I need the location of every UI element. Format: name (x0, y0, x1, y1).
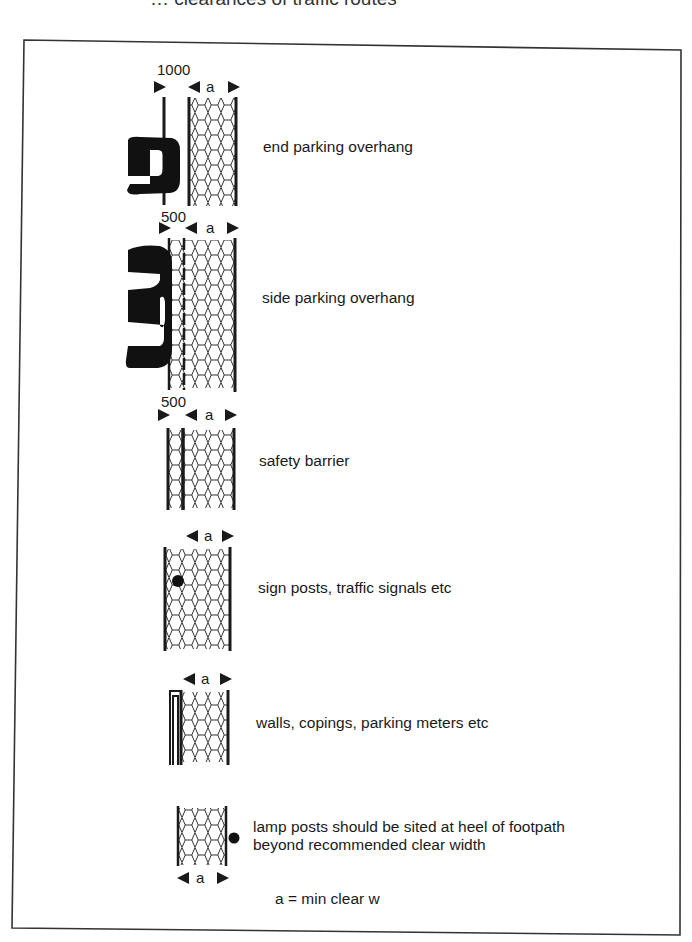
arrow-left-icon (188, 81, 200, 93)
offset-label-500: 500 (161, 393, 186, 410)
width-label-a: a (206, 78, 215, 95)
width-label-a: a (196, 869, 205, 886)
arrow-left-icon (185, 222, 197, 234)
row-side-parking: 500 a side parking overhang (126, 208, 415, 392)
row-description-line1: lamp posts should be sited at heel of fo… (253, 818, 565, 835)
offset-label-1000: 1000 (157, 61, 190, 78)
arrow-left-icon (183, 673, 195, 685)
arrow-right-icon (154, 81, 166, 93)
row-safety-barrier: 500 a safety barrier (158, 393, 349, 510)
row-description: sign posts, traffic signals etc (258, 579, 452, 596)
wall-icon (170, 691, 181, 765)
lamp-post-icon (229, 833, 240, 844)
width-label-a: a (206, 219, 215, 236)
row-end-parking: 1000 a end parking overhang (127, 61, 413, 206)
width-label-a: a (205, 406, 214, 423)
sign-post-icon (172, 575, 184, 587)
row-description: walls, copings, parking meters etc (255, 714, 489, 731)
car-side-icon (126, 246, 172, 369)
arrow-left-icon (185, 409, 197, 421)
row-description: side parking overhang (262, 289, 415, 306)
arrow-right-icon (222, 530, 234, 542)
arrow-left-icon (186, 530, 198, 542)
row-description: end parking overhang (263, 138, 413, 155)
arrow-right-icon (227, 222, 239, 234)
row-description-line2: beyond recommended clear width (253, 836, 486, 853)
figure-frame (12, 40, 681, 935)
arrow-right-icon (217, 872, 229, 884)
arrow-right-icon (225, 409, 237, 421)
arrow-right-icon (228, 81, 240, 93)
legend-text: a = min clear w (275, 890, 380, 907)
row-description: safety barrier (259, 452, 349, 469)
arrow-left-icon (177, 872, 189, 884)
row-walls: a walls, copings, parking meters etc (170, 670, 489, 765)
row-lamp-posts: a lamp posts should be sited at heel of … (177, 806, 565, 886)
width-label-a: a (204, 527, 213, 544)
row-sign-posts: a sign posts, traffic signals etc (165, 527, 452, 651)
offset-label-500: 500 (161, 208, 186, 225)
width-label-a: a (201, 670, 210, 687)
clearance-diagram: 1000 a end parking overhang 500 a side p… (0, 0, 692, 942)
car-end-icon (127, 137, 180, 195)
arrow-right-icon (158, 409, 170, 421)
arrow-right-icon (220, 673, 232, 685)
